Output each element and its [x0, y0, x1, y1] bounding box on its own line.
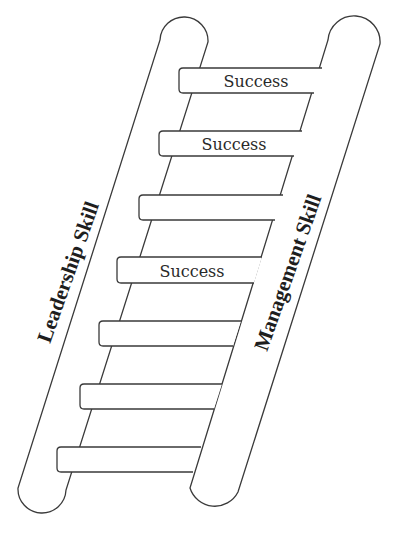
rung-4-label: Success [159, 262, 224, 281]
rung-2-label: Success [201, 135, 266, 154]
rung-5 [99, 321, 241, 346]
rung-7 [57, 447, 201, 472]
rung-4: Success [117, 257, 262, 283]
rung-2: Success [159, 131, 302, 156]
rung-1-label: Success [223, 72, 288, 91]
ladder-diagram: Success Success Success [0, 0, 408, 550]
rung-3 [139, 195, 283, 220]
rung-6 [80, 384, 222, 409]
rung-1: Success [179, 68, 322, 93]
